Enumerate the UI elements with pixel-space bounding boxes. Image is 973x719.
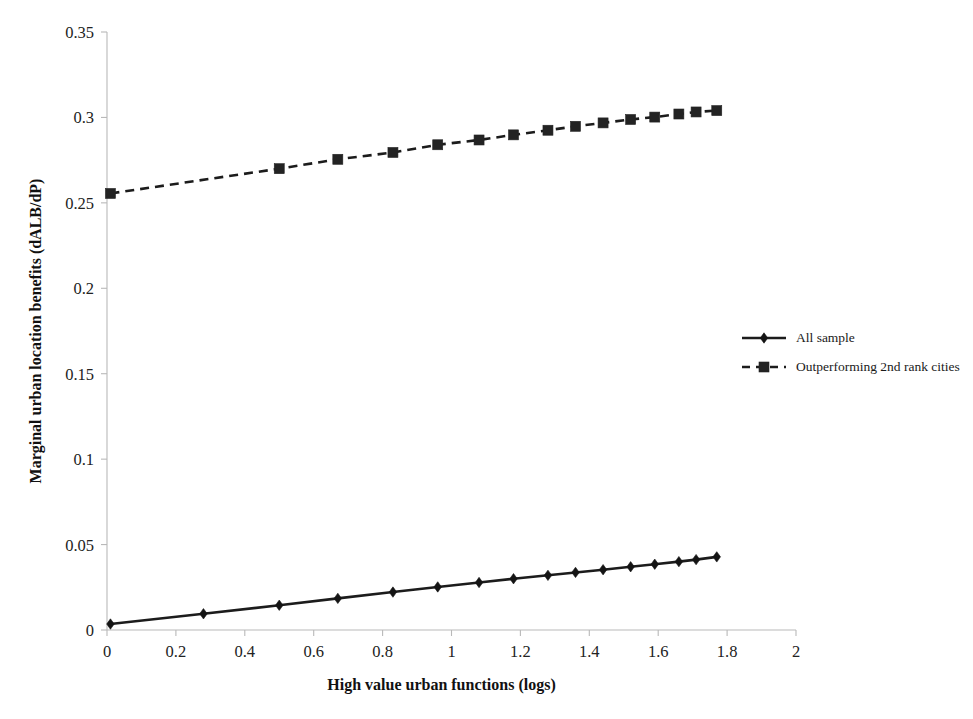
data-point-marker bbox=[543, 125, 553, 135]
x-tick-label: 1.2 bbox=[510, 642, 531, 661]
x-tick-label: 0.8 bbox=[372, 642, 393, 661]
x-axis-title: High value urban functions (logs) bbox=[327, 676, 555, 694]
x-tick-label: 2 bbox=[792, 642, 800, 661]
data-point-marker bbox=[598, 118, 608, 128]
legend-label-2: Outperforming 2nd rank cities bbox=[796, 359, 960, 374]
data-point-marker bbox=[712, 106, 722, 116]
legend-marker-square bbox=[759, 362, 769, 372]
y-tick-label: 0 bbox=[86, 621, 94, 640]
data-point-marker bbox=[650, 112, 660, 122]
data-point-marker bbox=[433, 140, 443, 150]
x-tick-label: 0.4 bbox=[234, 642, 255, 661]
x-tick-label: 1 bbox=[447, 642, 455, 661]
legend-label-1: All sample bbox=[796, 330, 855, 345]
data-point-marker bbox=[509, 130, 519, 140]
data-point-marker bbox=[274, 164, 284, 174]
x-tick-label: 0.2 bbox=[166, 642, 187, 661]
y-tick-label: 0.1 bbox=[73, 450, 94, 469]
line-chart: 00.050.10.150.20.250.30.3500.20.40.60.81… bbox=[0, 0, 973, 719]
y-tick-label: 0.05 bbox=[65, 536, 94, 555]
data-point-marker bbox=[571, 121, 581, 131]
data-point-marker bbox=[474, 135, 484, 145]
data-point-marker bbox=[105, 188, 115, 198]
data-point-marker bbox=[674, 109, 684, 119]
chart-figure: 00.050.10.150.20.250.30.3500.20.40.60.81… bbox=[0, 0, 973, 719]
y-tick-label: 0.2 bbox=[73, 279, 94, 298]
y-tick-label: 0.3 bbox=[73, 108, 94, 127]
y-tick-label: 0.15 bbox=[65, 365, 94, 384]
data-point-marker bbox=[626, 114, 636, 124]
x-tick-label: 1.4 bbox=[579, 642, 600, 661]
y-axis-title: Marginal urban location benefits (dALB/d… bbox=[27, 179, 45, 484]
x-tick-label: 0.6 bbox=[303, 642, 324, 661]
data-point-marker bbox=[333, 154, 343, 164]
x-tick-label: 1.8 bbox=[717, 642, 738, 661]
x-tick-label: 0 bbox=[103, 642, 111, 661]
y-tick-label: 0.35 bbox=[65, 23, 94, 42]
x-tick-label: 1.6 bbox=[648, 642, 669, 661]
data-point-marker bbox=[388, 147, 398, 157]
y-tick-label: 0.25 bbox=[65, 194, 94, 213]
data-point-marker bbox=[691, 107, 701, 117]
